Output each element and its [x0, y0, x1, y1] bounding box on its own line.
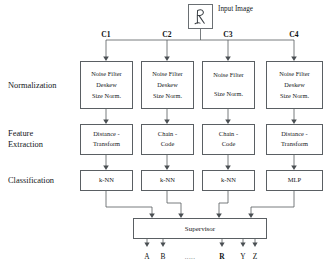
normalization-box-c4: Noise Filter Deskew Size Norm.: [266, 61, 323, 109]
arrowhead-out-a: [144, 243, 149, 247]
handwritten-r-glyph: [189, 5, 212, 28]
box-line: Size Norm.: [214, 91, 243, 98]
box-line: k-NN: [160, 177, 175, 184]
box-line: Size Norm.: [153, 93, 182, 100]
arrowhead-out-z: [252, 243, 257, 247]
classifier-box-c2: k-NN: [141, 170, 194, 191]
box-line: Noise Filter: [91, 71, 122, 78]
output-label-r: R: [219, 252, 224, 261]
wire-c1-class-to-supervisor: [106, 191, 152, 215]
output-label-ellipsis: .....: [185, 253, 196, 261]
wire-c2-class-to-supervisor: [167, 191, 181, 215]
column-header-c3: C3: [223, 30, 232, 39]
box-line: Noise Filter: [213, 72, 244, 79]
box-line: Transform: [93, 141, 120, 148]
box-line: Code: [161, 141, 175, 148]
feature-box-c3: Chain - Code: [202, 124, 255, 155]
box-line: Noise Filter: [279, 71, 310, 78]
wire-c3-class-to-supervisor: [219, 191, 228, 215]
normalization-box-c3: Noise Filter Size Norm.: [202, 61, 255, 109]
normalization-box-c1: Noise Filter Deskew Size Norm.: [80, 61, 133, 109]
box-line: Size Norm.: [280, 93, 309, 100]
output-label-z: Z: [253, 252, 258, 261]
box-line: Code: [222, 141, 236, 148]
column-header-c1: C1: [101, 30, 110, 39]
feature-box-c2: Chain - Code: [141, 124, 194, 155]
classifier-box-c1: k-NN: [80, 170, 133, 191]
classifier-box-c4: MLP: [266, 170, 323, 191]
stage-label-line: Extraction: [8, 139, 43, 150]
input-image-thumbnail: [188, 4, 213, 29]
input-image-label: Input Image: [218, 5, 253, 13]
box-line: Transform: [281, 141, 308, 148]
arrowhead-out-r: [219, 243, 224, 247]
box-line: k-NN: [99, 177, 114, 184]
box-line: Chain -: [219, 131, 238, 138]
supervisor-box: Supervisor: [133, 218, 267, 239]
arrowhead-out-b: [160, 243, 165, 247]
supervisor-label: Supervisor: [185, 225, 215, 233]
box-line: Noise Filter: [152, 71, 183, 78]
box-line: MLP: [288, 177, 302, 184]
feature-box-c4: Distance - Transform: [266, 124, 323, 155]
output-label-a: A: [144, 252, 149, 261]
box-line: Chain -: [158, 131, 177, 138]
classifier-box-c3: k-NN: [202, 170, 255, 191]
stage-label-normalization: Normalization: [8, 80, 56, 91]
column-header-c2: C2: [162, 30, 171, 39]
box-line: Size Norm.: [92, 93, 121, 100]
box-line: Distance -: [281, 131, 308, 138]
box-line: Deskew: [284, 82, 305, 89]
feature-box-c1: Distance - Transform: [80, 124, 133, 155]
pipeline-diagram: Input Image C1 C2 C3 C4 Normalization Fe…: [0, 0, 332, 269]
normalization-box-c2: Noise Filter Deskew Size Norm.: [141, 61, 194, 109]
stage-label-line: Normalization: [8, 80, 56, 91]
stage-label-classification: Classification: [8, 175, 54, 186]
wire-c4-class-to-supervisor: [251, 191, 294, 215]
output-label-b: B: [161, 252, 166, 261]
box-line: Deskew: [157, 82, 178, 89]
box-line: Deskew: [96, 82, 117, 89]
output-label-y: Y: [240, 252, 245, 261]
stage-label-line: Feature: [8, 128, 43, 139]
arrowhead-out-y: [240, 243, 245, 247]
box-line: k-NN: [221, 177, 236, 184]
stage-label-line: Classification: [8, 175, 54, 186]
column-header-c4: C4: [289, 30, 298, 39]
box-line: Distance -: [93, 131, 120, 138]
stage-label-feature-extraction: Feature Extraction: [8, 128, 43, 151]
